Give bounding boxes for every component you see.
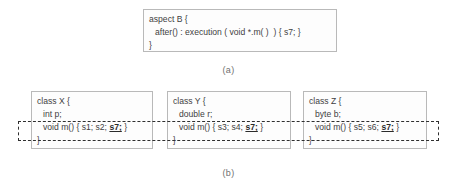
class-y-closing: } <box>168 134 290 147</box>
class-box-y: class Y { double r; void m() { s3; s4; s… <box>167 91 291 149</box>
class-x-method: void m() { s1; s2; s7; } <box>32 121 152 134</box>
caption-a: (a) <box>0 65 457 75</box>
aspect-definition-box: aspect B { after() : execution ( void *.… <box>143 9 337 52</box>
class-z-method-suffix: } <box>394 122 399 132</box>
class-y-method-suffix: } <box>258 122 263 132</box>
class-box-x: class X { int p; void m() { s1; s2; s7; … <box>31 91 153 149</box>
class-box-z: class Z { byte b; void m() { s5; s6; s7;… <box>303 91 427 149</box>
class-z-closing: } <box>304 134 426 147</box>
class-y-method-prefix: void m() { s3; s4; <box>179 122 245 132</box>
aspect-line-advice: after() : execution ( void *.m( ) ) { s7… <box>144 26 336 39</box>
caption-b: (b) <box>0 168 457 178</box>
class-x-header: class X { <box>32 92 152 108</box>
class-x-method-prefix: void m() { s1; s2; <box>43 122 109 132</box>
class-y-crosscut-statement: s7; <box>245 122 257 132</box>
aspectj-crosscutting-figure: aspect B { after() : execution ( void *.… <box>0 0 457 192</box>
class-z-field: byte b; <box>304 108 426 121</box>
class-z-method-prefix: void m() { s5; s6; <box>315 122 381 132</box>
class-x-crosscut-statement: s7; <box>109 122 121 132</box>
class-z-method: void m() { s5; s6; s7; } <box>304 121 426 134</box>
aspect-line-header: aspect B { <box>144 10 336 26</box>
class-z-crosscut-statement: s7; <box>381 122 393 132</box>
class-x-closing: } <box>32 134 152 147</box>
class-y-method: void m() { s3; s4; s7; } <box>168 121 290 134</box>
class-y-field: double r; <box>168 108 290 121</box>
class-x-method-suffix: } <box>122 122 127 132</box>
class-z-header: class Z { <box>304 92 426 108</box>
aspect-line-closing: } <box>144 39 336 52</box>
class-x-field: int p; <box>32 108 152 121</box>
class-y-header: class Y { <box>168 92 290 108</box>
